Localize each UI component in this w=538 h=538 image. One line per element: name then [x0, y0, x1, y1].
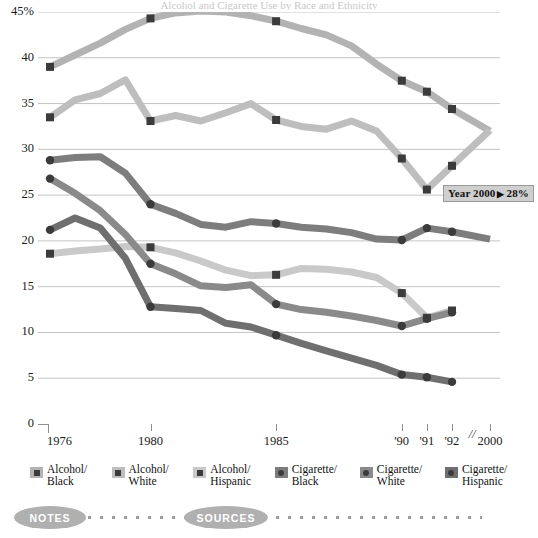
- legend-item[interactable]: Alcohol/Hispanic: [193, 464, 275, 492]
- legend-label-line1: Cigarette/: [377, 463, 422, 475]
- legend-circle-marker-icon: [360, 467, 373, 478]
- legend-item-label: Cigarette/Black: [292, 464, 337, 487]
- series-marker-cigarette-white: [398, 322, 406, 330]
- series-marker-cigarette-hispanic: [46, 226, 54, 234]
- sources-button[interactable]: Sources: [184, 506, 268, 529]
- series-marker-alcohol-black: [448, 105, 456, 113]
- series-marker-cigarette-black: [398, 236, 406, 244]
- legend-label-line1: Alcohol/: [210, 463, 250, 475]
- series-marker-cigarette-white: [46, 174, 54, 182]
- legend-label-line2: Hispanic: [210, 475, 251, 487]
- legend-item[interactable]: Alcohol/Black: [30, 464, 112, 492]
- notes-button[interactable]: Notes: [14, 506, 86, 529]
- legend-item[interactable]: Cigarette/Black: [275, 464, 360, 492]
- x-axis-tick-label: 2000: [478, 434, 503, 449]
- series-marker-alcohol-white: [398, 155, 406, 163]
- legend-item[interactable]: Cigarette/Hispanic: [445, 464, 530, 492]
- legend-item-label: Cigarette/Hispanic: [462, 464, 507, 487]
- series-marker-cigarette-hispanic: [272, 331, 280, 339]
- y-axis-tick-label: 10: [0, 325, 34, 337]
- series-marker-alcohol-white: [147, 117, 155, 125]
- x-axis-tick-label: 1976: [47, 434, 72, 449]
- annotation-label: Year 2000: [448, 187, 495, 199]
- legend-square-marker-icon: [30, 467, 43, 478]
- footer-bar: Notes Sources: [0, 506, 538, 538]
- x-axis-tick-label: 1985: [264, 434, 289, 449]
- series-marker-alcohol-hispanic: [147, 243, 155, 251]
- series-marker-alcohol-hispanic: [46, 250, 54, 258]
- series-marker-alcohol-white: [423, 186, 431, 194]
- annotation-arrow-icon: ▶: [495, 189, 506, 199]
- series-marker-alcohol-hispanic: [272, 271, 280, 279]
- y-axis-tick-label: 0: [0, 417, 34, 429]
- legend-item[interactable]: Alcohol/White: [112, 464, 194, 492]
- series-marker-alcohol-white: [272, 116, 280, 124]
- legend-label-line2: White: [129, 475, 157, 487]
- series-marker-cigarette-white: [146, 260, 154, 268]
- series-marker-cigarette-white: [423, 315, 431, 323]
- series-marker-alcohol-black: [147, 14, 155, 22]
- clipped-chart-title: Alcohol and Cigarette Use by Race and Et…: [0, 0, 538, 10]
- series-marker-alcohol-black: [423, 88, 431, 96]
- year-2000-annotation: Year 2000▶28%: [443, 185, 534, 202]
- x-axis-tick-label: 1980: [138, 434, 163, 449]
- x-axis-tick: [452, 424, 453, 431]
- legend-circle-marker-icon: [275, 467, 288, 478]
- chart-plot-area: [38, 12, 500, 424]
- x-axis-tick: [276, 424, 277, 431]
- annotation-value: 28%: [507, 187, 529, 199]
- chart-svg: [38, 12, 500, 424]
- x-axis-tick-label: '91: [419, 434, 434, 449]
- legend-label-line2: White: [377, 475, 405, 487]
- legend-circle-marker-icon: [445, 467, 458, 478]
- series-marker-cigarette-black: [272, 219, 280, 227]
- series-marker-cigarette-black: [448, 228, 456, 236]
- x-axis-tick: [490, 424, 491, 431]
- legend-square-marker-icon: [112, 467, 125, 478]
- y-axis-tick-label: 15: [0, 280, 34, 292]
- legend-item-label: Alcohol/Black: [47, 464, 87, 487]
- series-marker-cigarette-hispanic: [423, 373, 431, 381]
- x-axis-tick: [427, 424, 428, 431]
- legend-label-line2: Black: [47, 475, 74, 487]
- x-axis-tick-label: '92: [445, 434, 460, 449]
- legend-label-line2: Hispanic: [462, 475, 503, 487]
- legend-square-marker-icon: [193, 467, 206, 478]
- legend-label-line1: Alcohol/: [129, 463, 169, 475]
- series-marker-cigarette-hispanic: [146, 303, 154, 311]
- legend-label-line1: Cigarette/: [292, 463, 337, 475]
- x-axis-tick: [151, 424, 152, 431]
- y-axis-tick-label: 35: [0, 97, 34, 109]
- chart-legend: Alcohol/BlackAlcohol/WhiteAlcohol/Hispan…: [30, 464, 530, 492]
- axis-corner-mark: [38, 424, 49, 433]
- series-line-alcohol-white: [50, 80, 490, 190]
- series-marker-cigarette-black: [146, 200, 154, 208]
- series-marker-cigarette-hispanic: [398, 370, 406, 378]
- y-axis-tick-label: 45%: [0, 5, 34, 17]
- y-axis-tick-label: 5: [0, 371, 34, 383]
- y-axis-tick-label: 25: [0, 188, 34, 200]
- series-marker-alcohol-hispanic: [398, 289, 406, 297]
- legend-label-line2: Black: [292, 475, 319, 487]
- legend-label-line1: Alcohol/: [47, 463, 87, 475]
- legend-item-label: Alcohol/Hispanic: [210, 464, 251, 487]
- series-line-cigarette-white: [50, 179, 452, 326]
- series-marker-cigarette-white: [272, 300, 280, 308]
- x-axis-tick: [402, 424, 403, 431]
- y-axis-tick-label: 20: [0, 234, 34, 246]
- legend-item-label: Cigarette/White: [377, 464, 422, 487]
- series-marker-alcohol-black: [398, 77, 406, 85]
- sources-dotted-line: [252, 516, 482, 519]
- series-marker-cigarette-black: [423, 224, 431, 232]
- legend-item-label: Alcohol/White: [129, 464, 169, 487]
- series-marker-cigarette-black: [46, 156, 54, 164]
- legend-item[interactable]: Cigarette/White: [360, 464, 445, 492]
- y-axis-tick-label: 40: [0, 51, 34, 63]
- series-marker-alcohol-white: [448, 162, 456, 170]
- y-axis-tick-label: 30: [0, 142, 34, 154]
- axis-break-icon: //: [468, 426, 475, 442]
- series-marker-alcohol-black: [272, 17, 280, 25]
- legend-label-line1: Cigarette/: [462, 463, 507, 475]
- series-marker-cigarette-white: [448, 308, 456, 316]
- x-axis-tick-label: '90: [394, 434, 409, 449]
